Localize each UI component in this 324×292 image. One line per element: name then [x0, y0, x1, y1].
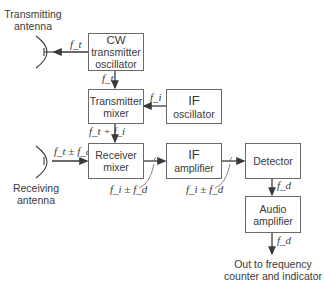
signal-fd-audio: f_d — [277, 234, 291, 246]
signal-fi: f_i — [150, 91, 162, 103]
audio-amplifier-block: Audio amplifier — [245, 196, 301, 233]
signal-ft-antenna: f_t — [70, 38, 82, 50]
output-label: Out to frequency counter and indicator — [222, 258, 324, 282]
signal-ft-plus-fi: f_t + f_i — [89, 125, 125, 137]
detector-block: Detector — [245, 143, 301, 179]
signal-fi-pm-fd-2: f_i ± f_d — [186, 183, 223, 195]
transmitting-antenna-label: Transmitting antenna — [2, 8, 64, 32]
cw-transmitter-oscillator-block: CW transmitter oscillator — [88, 33, 144, 71]
signal-fd-detector: f_d — [277, 179, 291, 191]
if-oscillator-block: IF oscillator — [166, 89, 222, 124]
signal-fi-pm-fd-1: f_i ± f_d — [110, 183, 147, 195]
receiving-antenna-label: Receiving antenna — [10, 182, 62, 206]
transmitting-antenna-icon — [36, 36, 54, 68]
transmitter-mixer-block: Transmitter mixer — [88, 89, 144, 124]
signal-ft-pm-fd: f_t ± f_d — [54, 145, 91, 157]
receiving-antenna-icon — [36, 146, 47, 178]
receiver-mixer-block: Receiver mixer — [88, 143, 144, 179]
signal-ft-mixer: f_t — [102, 72, 114, 84]
if-amplifier-block: IF amplifier — [166, 143, 222, 179]
